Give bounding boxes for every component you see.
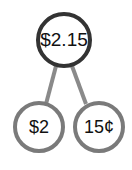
part-label-right: 15¢ (74, 116, 124, 138)
whole-label: $2.15 (34, 29, 94, 51)
number-bond-diagram (0, 0, 132, 170)
part-label-left: $2 (14, 116, 64, 138)
connector-right (72, 66, 86, 104)
connector-left (46, 66, 56, 104)
